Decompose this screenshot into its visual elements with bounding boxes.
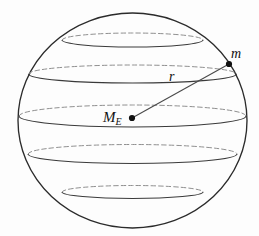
latitude-4-back-arc [28, 145, 237, 154]
latitude-line-2 [29, 65, 237, 83]
label-earth-mass-subscript: E [116, 116, 122, 127]
mass-point-marker [226, 61, 232, 67]
latitude-2-front-arc [29, 74, 237, 83]
latitude-1-back-arc [62, 33, 203, 40]
label-radius-r: r [169, 70, 174, 84]
label-mass-m: m [231, 47, 241, 61]
latitude-line-5 [62, 186, 203, 199]
diagram-canvas [0, 0, 259, 236]
label-earth-mass-base: M [103, 109, 116, 125]
latitude-5-back-arc [62, 186, 203, 192]
latitude-2-back-arc [29, 65, 237, 74]
center-point-marker [129, 115, 135, 121]
latitude-4-front-arc [28, 154, 237, 163]
latitude-line-1 [62, 33, 203, 47]
label-earth-mass: ME [103, 110, 122, 127]
latitude-1-front-arc [62, 40, 203, 47]
sphere-diagram: m r ME [0, 0, 259, 236]
latitude-line-4 [28, 145, 237, 164]
latitude-5-front-arc [62, 192, 203, 198]
radius-line [132, 64, 229, 118]
latitude-3-back-arc [19, 105, 246, 116]
